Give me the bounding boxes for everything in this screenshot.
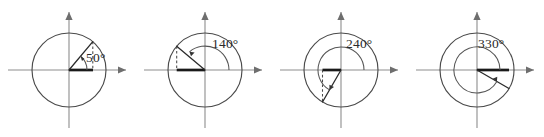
x-axis-arrowhead (254, 66, 262, 73)
y-axis-arrowhead (473, 12, 480, 20)
angle-label-240: 240° (346, 36, 372, 51)
terminal-ray (177, 46, 205, 70)
axes-group (416, 12, 534, 128)
angle-diagram-row: 50° 140° (0, 0, 544, 137)
x-axis-arrowhead (526, 66, 534, 73)
terminal-ray (477, 70, 509, 89)
x-axis-arrowhead (118, 66, 126, 73)
angle-label-330: 330° (478, 36, 504, 51)
axes-group (8, 12, 126, 128)
angle-label-140: 140° (212, 36, 238, 51)
angle-diagram-140: 140° (136, 0, 272, 137)
angle-diagram-240: 240° (272, 0, 408, 137)
angle-sweep-arrowhead (190, 52, 195, 56)
y-axis-arrowhead (65, 12, 72, 20)
y-axis-arrowhead (201, 12, 208, 20)
angle-label-50: 50° (86, 50, 106, 65)
y-axis-arrowhead (337, 12, 344, 20)
x-axis-arrowhead (390, 66, 398, 73)
angle-diagram-330: 330° (408, 0, 544, 137)
angle-diagram-50: 50° (0, 0, 136, 137)
